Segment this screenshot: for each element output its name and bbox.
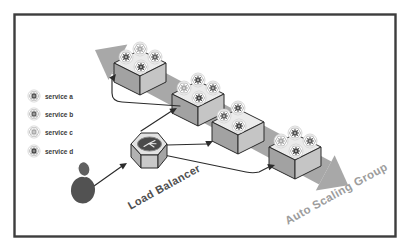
load-balancer-node[interactable] bbox=[131, 133, 167, 168]
diagram-frame bbox=[15, 15, 396, 237]
service-d-icon bbox=[192, 91, 206, 105]
architecture-diagram: Load Balancer Auto Scaling Group service… bbox=[0, 0, 410, 251]
service-b-icon bbox=[217, 109, 231, 123]
service-c-icon bbox=[133, 42, 147, 56]
diagram-canvas: Load Balancer Auto Scaling Group service… bbox=[0, 0, 410, 251]
service-d-icon bbox=[28, 145, 40, 157]
service-c-icon bbox=[177, 81, 191, 95]
service-b-icon bbox=[148, 50, 162, 64]
service-a-icon bbox=[119, 50, 133, 64]
legend-label: service d bbox=[45, 148, 73, 155]
service-b-icon bbox=[303, 134, 317, 148]
service-c-icon bbox=[274, 134, 288, 148]
legend-label: service a bbox=[45, 93, 73, 100]
service-a-icon bbox=[191, 73, 205, 87]
service-a-icon bbox=[28, 90, 40, 102]
legend-label: service b bbox=[45, 111, 73, 118]
service-d-icon bbox=[289, 144, 303, 158]
service-a-icon bbox=[231, 101, 245, 115]
service-a-icon bbox=[288, 126, 302, 140]
service-b-icon bbox=[28, 108, 40, 120]
service-b-icon bbox=[206, 81, 220, 95]
service-d-icon bbox=[134, 60, 148, 74]
service-c-icon bbox=[28, 126, 40, 138]
service-d-icon bbox=[232, 119, 246, 133]
legend-label: service c bbox=[45, 129, 73, 136]
